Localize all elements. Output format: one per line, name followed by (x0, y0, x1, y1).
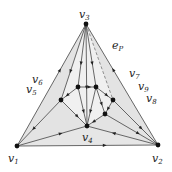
label-v8: v8 (146, 92, 157, 106)
node-a (76, 85, 81, 90)
node-v3 (84, 22, 89, 27)
node-b (94, 85, 99, 90)
node-e (103, 112, 108, 117)
node-v2 (156, 143, 161, 148)
node-c (59, 98, 64, 103)
node-d (111, 98, 116, 103)
label-v2: v2 (152, 152, 163, 166)
label-v1: v1 (8, 152, 19, 166)
label-v7: v7 (129, 67, 140, 81)
node-v1 (15, 144, 20, 149)
label-v6: v6 (32, 73, 43, 87)
node-v4 (85, 124, 90, 129)
graph-diagram: v3 v1 v2 v4 v6 v5 v7 v9 v8 eP (0, 0, 172, 172)
label-v3: v3 (79, 8, 90, 22)
label-ep: eP (112, 39, 124, 53)
